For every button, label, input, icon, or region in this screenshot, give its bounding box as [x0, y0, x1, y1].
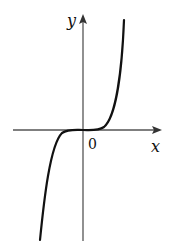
function-graph: y x 0	[0, 0, 170, 243]
origin-label: 0	[88, 136, 97, 152]
x-axis-label: x	[151, 137, 160, 156]
y-axis-label: y	[66, 11, 77, 30]
